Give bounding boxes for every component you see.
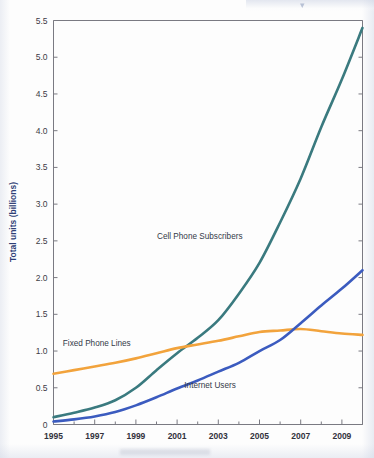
y-tick-label: 1.5 [36,309,48,319]
series-line-cell-phone-subscribers [54,28,363,417]
y-tick-label: 2.0 [36,273,48,283]
x-tick-label: 2001 [168,431,187,441]
chart-axes: 00.51.01.52.02.53.03.54.04.55.05.5199519… [36,16,363,441]
series-label-cell-phone-subscribers: Cell Phone Subscribers [157,232,243,241]
x-tick-label: 2003 [209,431,228,441]
plot-frame [54,21,363,425]
x-tick-label: 2005 [250,431,269,441]
x-tick-label: 1997 [85,431,104,441]
chart-container: ▾ 00.51.01.52.02.53.03.54.04.55.05.51995… [0,0,374,458]
y-tick-label: 1.0 [36,346,48,356]
y-tick-label: 4.0 [36,126,48,136]
y-tick-label: 2.5 [36,236,48,246]
y-tick-label: 0.5 [36,383,48,393]
x-tick-label: 1999 [126,431,145,441]
y-tick-label: 5.0 [36,52,48,62]
x-tick-label: 1995 [44,431,63,441]
series-label-fixed-phone-lines: Fixed Phone Lines [63,339,131,348]
series-line-fixed-phone-lines [54,329,363,374]
line-chart-svg: 00.51.01.52.02.53.03.54.04.55.05.5199519… [0,0,374,458]
y-tick-label: 4.5 [36,89,48,99]
y-tick-label: 3.5 [36,162,48,172]
y-tick-label: 3.0 [36,199,48,209]
y-tick-label: 5.5 [36,16,48,26]
y-axis-title-group: Total units (billions) [8,182,18,262]
chart-series [54,28,363,422]
y-tick-label: 0 [43,420,48,430]
x-tick-label: 2007 [291,431,310,441]
x-tick-label: 2009 [332,431,351,441]
y-axis-title: Total units (billions) [8,182,18,262]
series-label-internet-users: Internet Users [184,381,235,390]
